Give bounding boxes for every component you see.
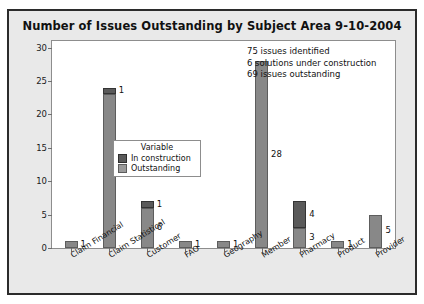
y-axis-tick-mark xyxy=(48,248,52,249)
y-axis-tick-mark xyxy=(48,114,52,115)
y-axis-tick-label: 10 xyxy=(21,176,47,186)
bar-segment-in-construction xyxy=(293,201,306,228)
x-axis-category-label: Member xyxy=(260,252,265,260)
bar-value-label-outstanding: 3 xyxy=(309,232,314,242)
chart-title: Number of Issues Outstanding by Subject … xyxy=(9,19,415,33)
y-axis-tick-mark xyxy=(48,148,52,149)
summary-annotation: 75 issues identified6 solutions under co… xyxy=(247,46,376,81)
legend-label: Outstanding xyxy=(131,164,180,173)
y-axis-tick-label: 20 xyxy=(21,109,47,119)
bar-group xyxy=(293,201,306,248)
x-axis-category-label: Pharmacy xyxy=(298,252,303,260)
x-axis-category-label: Customer xyxy=(145,252,150,260)
x-axis-category-label: Provider xyxy=(374,252,379,260)
bar-value-label-outstanding: 5 xyxy=(385,225,390,235)
y-axis-tick-label: 15 xyxy=(21,143,47,153)
y-axis-tick-mark xyxy=(48,181,52,182)
y-axis-tick-label: 30 xyxy=(21,43,47,53)
legend-entry: Outstanding xyxy=(118,164,196,173)
annotation-line: 75 issues identified xyxy=(247,46,376,58)
x-axis-category-label: Claim Financial xyxy=(69,252,74,260)
x-axis-category-label: Claim Statistical xyxy=(107,252,112,260)
x-axis-category-label: Product xyxy=(336,252,341,260)
bar-segment-outstanding xyxy=(369,215,382,248)
legend-label: In construction xyxy=(131,154,191,163)
bar-segment-in-construction xyxy=(141,201,154,208)
y-axis-tick-label: 25 xyxy=(21,76,47,86)
x-axis-category-label: FAO xyxy=(183,252,188,260)
bar-segment-outstanding xyxy=(255,61,268,248)
bar-segment-outstanding xyxy=(293,228,306,248)
annotation-line: 69 issues outstanding xyxy=(247,69,376,81)
y-axis-tick-mark xyxy=(48,81,52,82)
bar-value-label-outstanding: 28 xyxy=(271,149,282,159)
y-axis-tick-mark xyxy=(48,215,52,216)
legend-entries: In constructionOutstanding xyxy=(118,154,196,173)
x-axis-category-label: Geography xyxy=(222,252,227,260)
legend-swatch-outstanding xyxy=(118,164,127,173)
bar-segment-in-construction xyxy=(103,88,116,95)
bar-group xyxy=(369,215,382,248)
chart-legend: Variable In constructionOutstanding xyxy=(113,140,201,177)
y-axis-tick-label: 5 xyxy=(21,210,47,220)
bar-group xyxy=(255,61,268,248)
chart-frame: Number of Issues Outstanding by Subject … xyxy=(7,9,417,295)
legend-swatch-in-construction xyxy=(118,154,127,163)
y-axis-tick-mark xyxy=(48,48,52,49)
legend-entry: In construction xyxy=(118,154,196,163)
bar-value-label-in-construction: 4 xyxy=(309,209,314,219)
y-axis-tick-label: 0 xyxy=(21,243,47,253)
legend-title: Variable xyxy=(118,143,196,152)
annotation-line: 6 solutions under construction xyxy=(247,58,376,70)
bar-value-label-in-construction: 1 xyxy=(157,199,162,209)
bar-value-label-in-construction: 1 xyxy=(119,85,124,95)
